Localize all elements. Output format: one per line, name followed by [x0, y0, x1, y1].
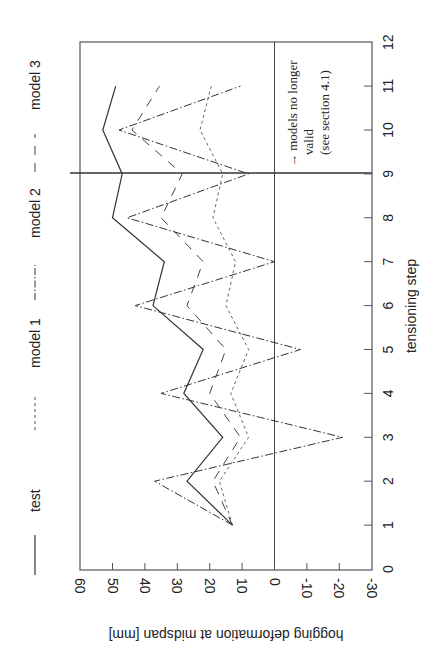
step-tick-label: 5 [380, 345, 396, 353]
series-line-model-1 [200, 86, 249, 525]
step-axis-title: tensioning step [403, 259, 419, 353]
validity-annotation: → models no longer valid (see section 4.… [285, 60, 332, 167]
value-tick-label: -10 [299, 578, 315, 598]
series-line-model-3 [132, 86, 241, 525]
legend-label: test [27, 489, 43, 512]
value-tick-label: -30 [364, 578, 380, 598]
legend-item-model-1: model 1 [27, 318, 43, 430]
step-tick-label: 1 [380, 521, 396, 529]
step-tick-label: 2 [380, 477, 396, 485]
legend-item-test: test [27, 489, 43, 575]
legend-label: model 3 [27, 60, 43, 110]
step-tick-label: 6 [380, 301, 396, 309]
value-tick-label: 50 [105, 578, 121, 594]
legend-label: model 1 [27, 318, 43, 368]
step-tick-label: 9 [380, 170, 396, 178]
value-tick-label: 0 [267, 578, 283, 586]
annotation-line-3: (see section 4.1) [317, 70, 332, 155]
legend-item-model-3: model 3 [27, 60, 43, 172]
legend: test model 1 model 2 model 3 [27, 60, 43, 575]
step-tick-label: 11 [380, 79, 396, 94]
step-tick-label: 4 [380, 389, 396, 397]
step-axis-ticks: 0123456789101112 [364, 34, 396, 573]
legend-item-model-2: model 2 [27, 188, 43, 300]
step-tick-label: 8 [380, 214, 396, 222]
value-tick-label: 60 [72, 578, 88, 594]
value-tick-label: 20 [202, 578, 218, 594]
step-tick-label: 12 [380, 34, 396, 50]
value-tick-label: -20 [331, 578, 347, 598]
value-axis-title: hogging deformation at midspan [mm] [108, 627, 343, 643]
annotation-line-2: valid [301, 129, 316, 155]
annotation-line-1: → models no longer [285, 60, 300, 167]
deformation-chart: 6050403020100-10-20-30 0123456789101112 … [0, 0, 444, 659]
series-line-test [103, 86, 233, 525]
legend-label: model 2 [27, 188, 43, 238]
value-tick-label: 10 [234, 578, 250, 594]
value-tick-label: 40 [137, 578, 153, 594]
value-axis-ticks: 6050403020100-10-20-30 [72, 563, 380, 598]
value-tick-label: 30 [169, 578, 185, 594]
step-tick-label: 10 [380, 122, 396, 138]
step-tick-label: 3 [380, 433, 396, 441]
step-tick-label: 7 [380, 258, 396, 266]
step-tick-label: 0 [380, 565, 396, 573]
